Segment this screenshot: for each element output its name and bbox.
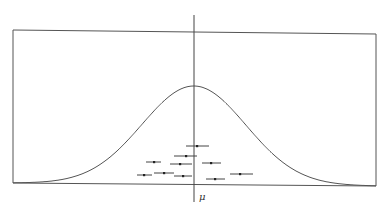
normal-distribution-diagram: μ [0,0,387,212]
point-marker [196,145,198,147]
point-marker [210,162,212,164]
point-marker [179,163,181,165]
sample-estimate [206,178,225,180]
point-marker [153,161,155,163]
sample-estimate [137,174,152,176]
diagram-canvas [0,0,387,212]
sample-estimate [230,173,253,175]
sample-estimate [170,163,192,165]
sample-estimate [154,172,174,174]
point-marker [163,172,165,174]
sample-estimate [202,162,221,164]
sample-estimates [137,145,253,180]
mean-label: μ [199,191,206,202]
point-marker [239,173,241,175]
point-marker [143,174,145,176]
sample-estimate [174,175,192,177]
sample-estimate [186,145,209,147]
sample-estimate [146,161,161,163]
point-marker [185,155,187,157]
point-marker [214,178,216,180]
point-marker [182,175,184,177]
